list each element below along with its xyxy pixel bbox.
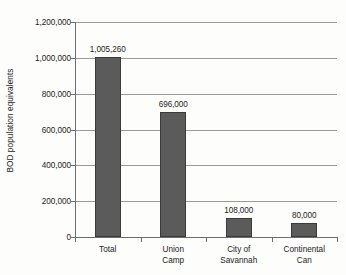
x-tick-label-line: City of [220, 244, 257, 255]
bar-chart-figure: BOD population equivalents 0200,000400,0… [0, 0, 346, 275]
y-axis-title: BOD population equivalents [0, 0, 20, 240]
bar-value-label: 696,000 [159, 100, 188, 109]
x-tick-mark [141, 237, 142, 242]
x-tick-mark [272, 237, 273, 242]
x-tick-label-line: Savannah [220, 255, 257, 266]
y-tick-label: 1,000,000 [35, 53, 71, 62]
bar-group: 108,000 [206, 22, 272, 237]
x-tick-mark [75, 237, 76, 242]
y-tick-label: 400,000 [42, 161, 71, 170]
y-tick-label: 200,000 [42, 197, 71, 206]
x-tick-label-line: Total [99, 244, 116, 255]
bar [291, 223, 317, 237]
bar-group: 696,000 [141, 22, 207, 237]
bar-value-label: 108,000 [224, 206, 253, 215]
bar-value-label: 1,005,260 [90, 45, 126, 54]
x-tick-label: Total [99, 244, 116, 255]
bar-value-label: 80,000 [292, 211, 317, 220]
y-tick-label: 1,200,000 [35, 18, 71, 27]
bar [95, 57, 121, 237]
bars-layer: 1,005,260696,000108,00080,000 [75, 22, 337, 237]
y-axis-tick-labels: 0200,000400,000600,000800,0001,000,0001,… [18, 0, 71, 275]
y-tick-label: 0 [66, 233, 71, 242]
y-axis-title-text: BOD population equivalents [6, 68, 15, 172]
x-tick-label-line: Union [162, 244, 184, 255]
x-tick-label-line: Can [284, 255, 325, 266]
x-tick-marks [75, 237, 338, 242]
bar [226, 218, 252, 237]
bar-group: 80,000 [272, 22, 338, 237]
x-tick-mark [337, 237, 338, 242]
x-tick-label: UnionCamp [162, 244, 184, 266]
bar-group: 1,005,260 [75, 22, 141, 237]
x-tick-label-line: Continental [284, 244, 325, 255]
y-tick-label: 600,000 [42, 125, 71, 134]
x-tick-mark [206, 237, 207, 242]
bar [160, 112, 186, 237]
x-tick-label: ContinentalCan [284, 244, 325, 266]
x-tick-label: City ofSavannah [220, 244, 257, 266]
x-tick-label-line: Camp [162, 255, 184, 266]
x-axis-tick-labels: TotalUnionCampCity ofSavannahContinental… [75, 244, 337, 274]
y-tick-label: 800,000 [42, 89, 71, 98]
